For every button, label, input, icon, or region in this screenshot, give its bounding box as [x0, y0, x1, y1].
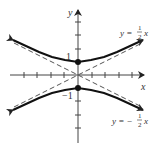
- tick-label-minus-one: −1: [62, 90, 73, 101]
- vertex-point-upper: [75, 59, 81, 65]
- y-axis-label: y: [67, 7, 73, 18]
- svg-text:2: 2: [138, 33, 142, 41]
- vertex-point-lower: [75, 85, 81, 91]
- svg-text:x: x: [143, 28, 148, 38]
- x-axis: [10, 72, 144, 78]
- svg-text:2: 2: [138, 121, 142, 129]
- asymptote-label-lower: y = − 1 2 x: [111, 112, 148, 129]
- tick-label-one: 1: [66, 51, 71, 62]
- svg-text:x: x: [143, 116, 148, 126]
- hyperbola-figure: x y 1 −1 y = 1 2 x y = − 1 2: [0, 0, 155, 150]
- svg-text:1: 1: [138, 112, 142, 120]
- svg-text:1: 1: [138, 24, 142, 32]
- svg-text:y =: y =: [119, 28, 132, 38]
- x-axis-label: x: [140, 81, 146, 92]
- asymptote-label-upper: y = 1 2 x: [119, 24, 148, 41]
- svg-text:y = −: y = −: [111, 116, 133, 126]
